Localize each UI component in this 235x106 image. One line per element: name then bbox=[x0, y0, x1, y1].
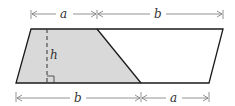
height-label: h bbox=[50, 48, 58, 62]
top-b-label: b bbox=[154, 7, 162, 21]
bottom-a-label: a bbox=[170, 91, 177, 105]
trapezoid-parallelogram-diagram: h a b b a bbox=[0, 0, 235, 106]
shaded-trapezoid bbox=[16, 29, 141, 83]
top-a-label: a bbox=[60, 7, 67, 21]
bottom-b-label: b bbox=[74, 91, 82, 105]
bottom-dimension bbox=[16, 92, 209, 102]
